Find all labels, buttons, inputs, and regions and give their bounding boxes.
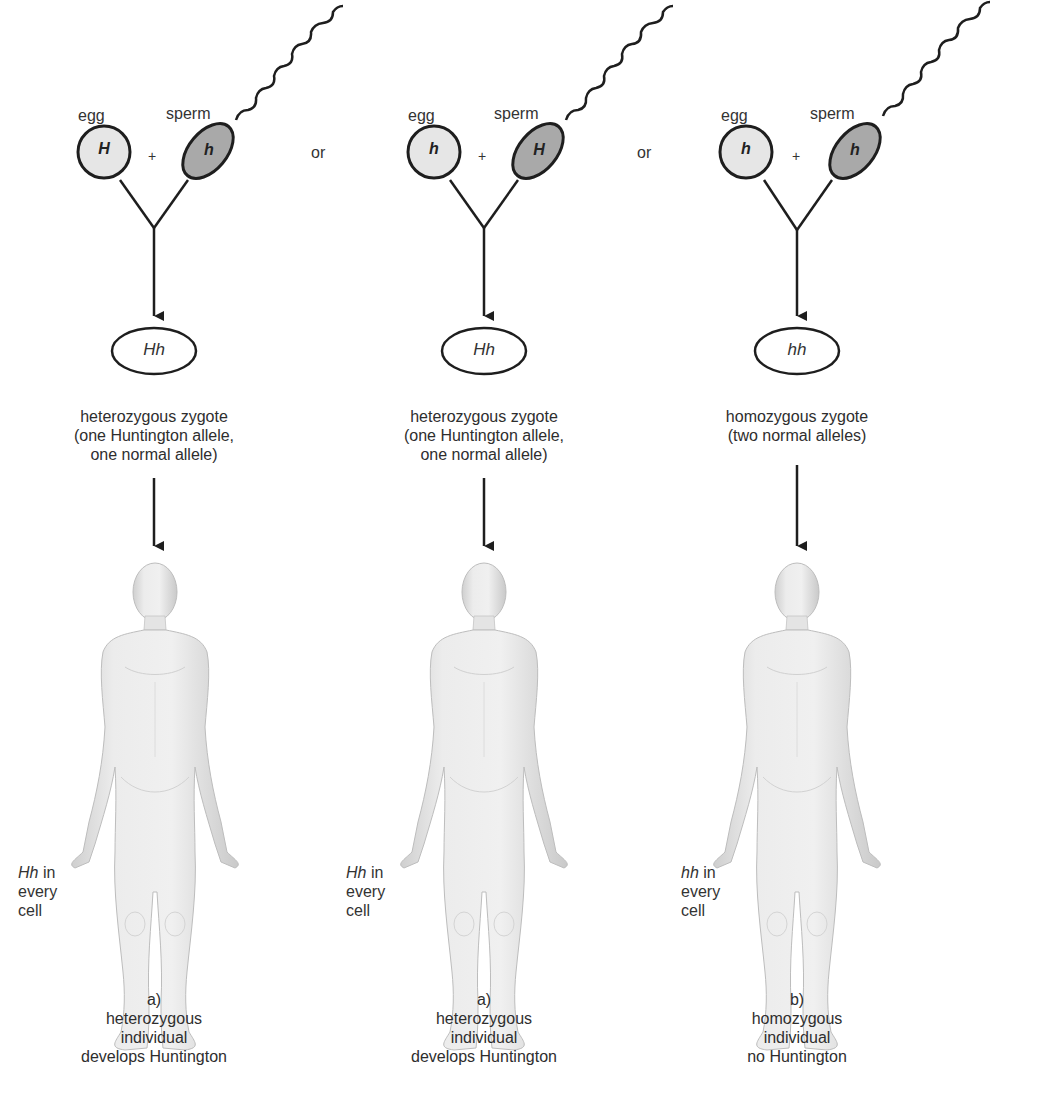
zygote-description: homozygous zygote (two normal alleles): [677, 407, 917, 445]
cell-genotype-note: Hh in every cell: [18, 863, 57, 920]
zygote-genotype: Hh: [112, 340, 196, 360]
column-2-graphics: [401, 6, 673, 1050]
sperm-label: sperm: [494, 105, 538, 123]
or-separator: or: [637, 144, 651, 162]
column-1-graphics: [72, 6, 343, 1050]
human-figure-icon: [72, 563, 239, 1050]
zygote-genotype: hh: [755, 340, 839, 360]
egg-allele: h: [734, 140, 758, 158]
sperm-label: sperm: [166, 105, 210, 123]
sperm-tail-icon: [236, 6, 343, 120]
zygote-genotype: Hh: [442, 340, 526, 360]
plus-sign: +: [792, 148, 800, 164]
egg-allele: H: [92, 140, 116, 158]
zygote-description: heterozygous zygote (one Huntington alle…: [364, 407, 604, 464]
egg-label: egg: [408, 107, 435, 125]
column-3-graphics: [714, 2, 990, 1050]
sperm-allele: H: [527, 141, 551, 159]
sperm-label: sperm: [810, 105, 854, 123]
sperm-allele: h: [843, 141, 867, 159]
cell-genotype-note: Hh in every cell: [346, 863, 385, 920]
sperm-tail-icon: [566, 6, 673, 120]
egg-allele: h: [422, 140, 446, 158]
human-figure-icon: [714, 563, 881, 1050]
cell-genotype-note: hh in every cell: [681, 863, 720, 920]
zygote-description: heterozygous zygote (one Huntington alle…: [34, 407, 274, 464]
human-figure-icon: [401, 563, 568, 1050]
egg-label: egg: [721, 107, 748, 125]
outcome-caption: a) heterozygous individual develops Hunt…: [34, 990, 274, 1066]
sperm-tail-icon: [883, 2, 990, 116]
or-separator: or: [311, 144, 325, 162]
diagram-graphics: [0, 0, 1049, 1099]
sperm-allele: h: [197, 141, 221, 159]
egg-label: egg: [78, 107, 105, 125]
plus-sign: +: [148, 148, 156, 164]
outcome-caption: a) heterozygous individual develops Hunt…: [364, 990, 604, 1066]
plus-sign: +: [478, 148, 486, 164]
outcome-caption: b) homozygous individual no Huntington: [677, 990, 917, 1066]
